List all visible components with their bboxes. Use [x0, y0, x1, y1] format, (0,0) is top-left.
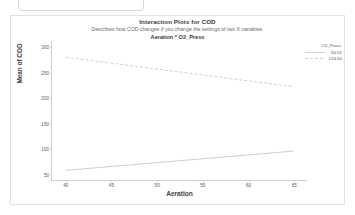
legend-swatch-icon	[305, 50, 325, 55]
y-tick-mark	[50, 123, 52, 124]
y-tick-mark	[50, 149, 52, 150]
x-tick-mark	[66, 180, 67, 182]
x-tick-mark	[111, 180, 112, 182]
x-tick-label: 55	[200, 183, 205, 188]
x-axis-label: Aeration	[52, 190, 307, 197]
legend: O2_Press 50.01124.50	[294, 43, 342, 61]
y-tick-label: 50	[44, 172, 49, 177]
x-tick-label: 50	[155, 183, 160, 188]
y-tick-mark	[50, 174, 52, 175]
chart-subtitle: Describes how COD changes if you change …	[11, 25, 344, 33]
x-tick-mark	[249, 180, 250, 182]
y-tick-label: 100	[41, 147, 49, 152]
data-lines	[52, 41, 307, 180]
legend-label: 50.01	[329, 50, 342, 55]
panel-title: Aeration * O2_Press	[11, 33, 344, 41]
y-tick-label: 150	[41, 121, 49, 126]
text-input-box[interactable]	[18, 0, 144, 11]
legend-swatch-icon	[305, 56, 325, 61]
x-tick-mark	[203, 180, 204, 182]
x-tick-mark	[294, 180, 295, 182]
legend-title: O2_Press	[294, 43, 342, 48]
legend-label: 124.50	[329, 56, 342, 61]
x-tick-label: 45	[109, 183, 114, 188]
y-axis-label: Mean of COD	[16, 34, 23, 94]
x-tick-label: 40	[63, 183, 68, 188]
legend-item[interactable]: 124.50	[294, 55, 342, 61]
x-tick-mark	[157, 180, 158, 182]
x-tick-label: 65	[292, 183, 297, 188]
y-tick-label: 250	[41, 70, 49, 75]
plot-area: 50100150200250300 404550556065 Aeration	[51, 41, 307, 181]
x-tick-label: 60	[246, 183, 251, 188]
y-tick-label: 200	[41, 96, 49, 101]
y-tick-mark	[50, 47, 52, 48]
y-tick-mark	[50, 98, 52, 99]
chart-panel: Interaction Plots for COD Describes how …	[10, 15, 345, 205]
series-line-124.50	[66, 57, 294, 86]
series-line-50.01	[66, 151, 294, 170]
y-tick-mark	[50, 72, 52, 73]
y-tick-label: 300	[41, 45, 49, 50]
